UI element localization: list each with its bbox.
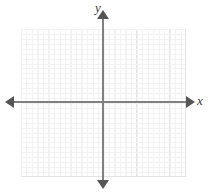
y-axis-label: y — [95, 1, 101, 14]
y-axis-down-arrow-icon — [97, 180, 109, 189]
coordinate-plane: y x — [0, 0, 208, 194]
x-axis-line — [12, 101, 188, 103]
x-axis-label: x — [197, 94, 203, 107]
y-axis-line — [102, 16, 104, 182]
x-axis-right-arrow-icon — [186, 96, 195, 108]
x-axis-left-arrow-icon — [5, 96, 14, 108]
